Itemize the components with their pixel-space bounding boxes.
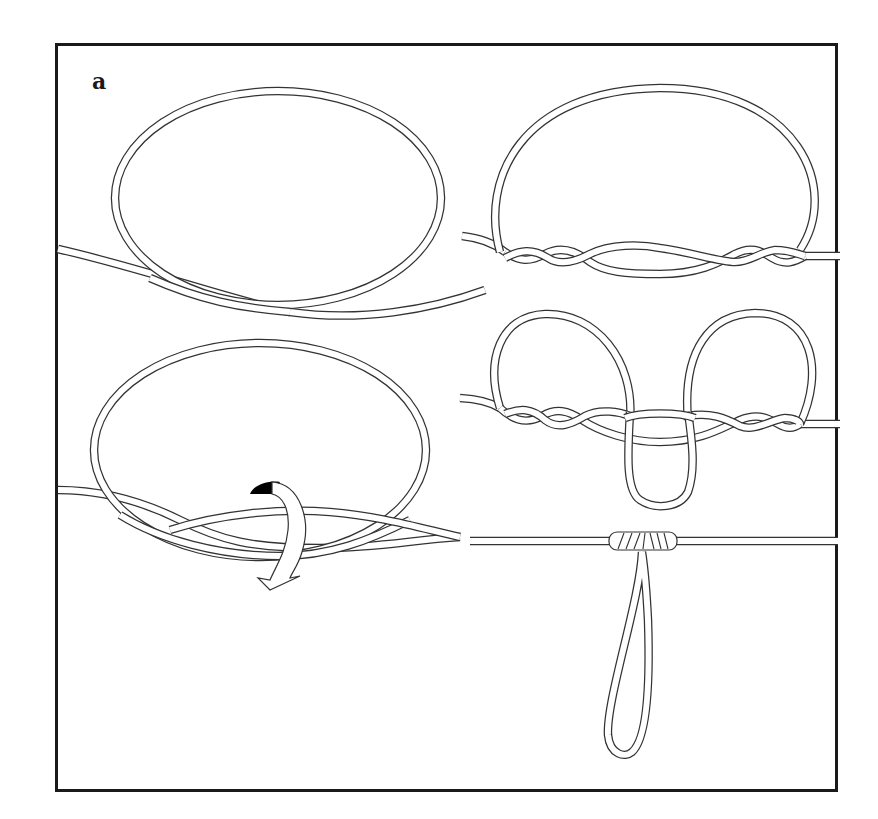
knot-wraps <box>609 532 677 550</box>
step-3-twisted-loop <box>462 88 840 274</box>
step-5-finished-knot <box>470 532 838 755</box>
step-4-pull-through <box>460 313 840 506</box>
step-1-loop-formation <box>58 91 485 316</box>
step-2-twist <box>58 343 460 590</box>
rotation-arrow-icon <box>250 482 305 591</box>
knot-diagram <box>0 0 878 819</box>
